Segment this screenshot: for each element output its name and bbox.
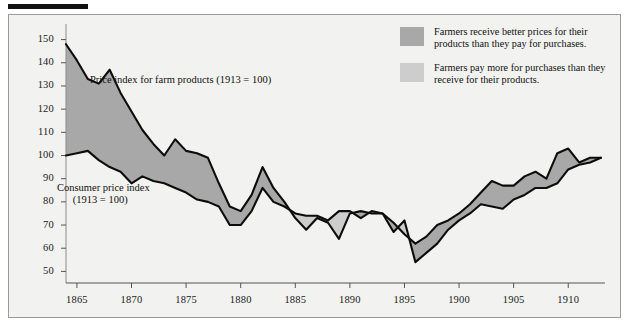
y-tick-label: 60 xyxy=(24,242,54,253)
x-tick-label: 1910 xyxy=(548,294,588,305)
x-tick-label: 1870 xyxy=(112,294,152,305)
x-tick-label: 1875 xyxy=(166,294,206,305)
legend-item-favorable: Farmers receive better prices for their … xyxy=(400,26,615,51)
legend-label-favorable: Farmers receive better prices for their … xyxy=(434,26,615,51)
y-tick-label: 140 xyxy=(24,56,54,67)
x-tick-label: 1885 xyxy=(275,294,315,305)
y-tick-label: 90 xyxy=(24,172,54,183)
y-tick-label: 120 xyxy=(24,103,54,114)
farm-series-label: Price index for farm products (1913 = 10… xyxy=(90,74,271,86)
figure-root: 5060708090100110120130140150 18651870187… xyxy=(0,0,629,328)
legend-swatch-favorable xyxy=(400,27,424,46)
legend-label-unfavorable: Farmers pay more for purchases than they… xyxy=(434,62,615,87)
y-tick-label: 80 xyxy=(24,195,54,206)
x-tick-label: 1880 xyxy=(221,294,261,305)
y-tick-label: 130 xyxy=(24,79,54,90)
chart-legend: Farmers receive better prices for their … xyxy=(400,26,615,98)
legend-item-unfavorable: Farmers pay more for purchases than they… xyxy=(400,62,615,87)
x-tick-label: 1890 xyxy=(330,294,370,305)
x-tick-label: 1895 xyxy=(384,294,424,305)
x-tick-label: 1905 xyxy=(494,294,534,305)
y-tick-label: 70 xyxy=(24,219,54,230)
x-tick-label: 1865 xyxy=(57,294,97,305)
consumer-series-label: Consumer price index (1913 = 100) xyxy=(57,182,150,206)
y-tick-label: 110 xyxy=(24,126,54,137)
y-tick-label: 150 xyxy=(24,33,54,44)
y-tick-label: 50 xyxy=(24,265,54,276)
y-tick-label: 100 xyxy=(24,149,54,160)
legend-swatch-unfavorable xyxy=(400,63,424,82)
x-tick-label: 1900 xyxy=(439,294,479,305)
